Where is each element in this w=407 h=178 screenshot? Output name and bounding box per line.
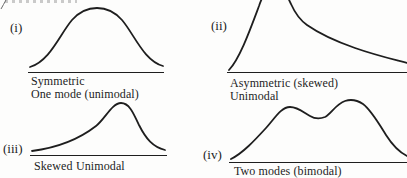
caption-unimodal-ii: Unimodal [230, 90, 279, 103]
curve-bimodal [231, 100, 407, 159]
panel-label-iii: (iii) [3, 142, 23, 155]
cropped-glyph-mark [1, 0, 6, 9]
curve-skewed-unimodal [32, 103, 165, 151]
caption-skewed: Skewed [34, 160, 73, 173]
caption-one-mode-unimodal: One mode (unimodal) [31, 88, 139, 101]
caption-unimodal-iii: Unimodal [76, 160, 125, 173]
panel-label-i: (i) [10, 21, 22, 34]
panel-label-iv: (iv) [203, 148, 222, 161]
curve-asymmetric-skewed [229, 0, 407, 70]
figure-canvas: (i) (ii) (iii) (iv) Symmetric One mode (… [0, 0, 407, 178]
curve-symmetric-unimodal [30, 8, 163, 67]
panel-label-ii: (ii) [211, 19, 227, 32]
caption-two-modes-bimodal: Two modes (bimodal) [234, 165, 342, 178]
